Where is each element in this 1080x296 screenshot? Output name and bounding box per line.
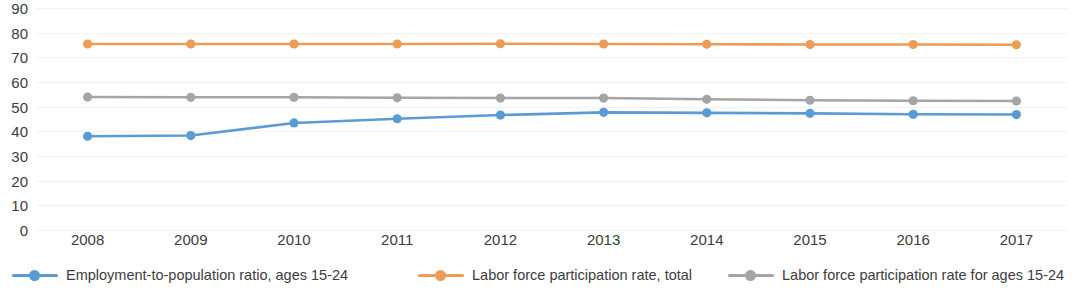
data-point-marker xyxy=(289,93,298,102)
data-point-marker xyxy=(186,39,195,48)
data-point-marker xyxy=(496,93,505,102)
legend-item[interactable]: Labor force participation rate, total xyxy=(418,262,692,288)
legend-item[interactable]: Labor force participation rate for ages … xyxy=(728,262,1064,288)
data-point-marker xyxy=(1012,110,1021,119)
data-point-marker xyxy=(289,118,298,127)
data-point-marker xyxy=(393,114,402,123)
series-layer xyxy=(36,8,1068,230)
data-point-marker xyxy=(1012,40,1021,49)
data-point-marker xyxy=(83,92,92,101)
x-axis-tick-label: 2009 xyxy=(174,232,207,247)
data-point-marker xyxy=(393,39,402,48)
data-point-marker xyxy=(805,40,814,49)
data-point-marker xyxy=(496,110,505,119)
data-point-marker xyxy=(702,108,711,117)
y-axis-tick-label: 40 xyxy=(11,124,28,139)
data-point-marker xyxy=(702,40,711,49)
data-point-marker xyxy=(1012,96,1021,105)
series-line xyxy=(88,44,1017,45)
series-line xyxy=(88,97,1017,101)
data-point-marker xyxy=(805,109,814,118)
legend-marker-icon xyxy=(418,267,464,283)
legend-label: Labor force participation rate for ages … xyxy=(782,268,1064,283)
y-axis-tick-label: 0 xyxy=(20,223,28,238)
y-axis-tick-label: 60 xyxy=(11,75,28,90)
data-point-marker xyxy=(599,39,608,48)
legend-marker-icon xyxy=(728,267,774,283)
series-3 xyxy=(83,92,1021,105)
legend-dot xyxy=(435,270,446,281)
data-point-marker xyxy=(599,108,608,117)
y-axis-tick-label: 30 xyxy=(11,149,28,164)
x-axis-tick-label: 2011 xyxy=(381,232,413,247)
legend-label: Labor force participation rate, total xyxy=(472,268,692,283)
data-point-marker xyxy=(702,95,711,104)
line-chart: 9080706050403020100 20082009201020112012… xyxy=(0,0,1080,296)
data-point-marker xyxy=(805,96,814,105)
x-axis-tick-label: 2015 xyxy=(793,232,826,247)
series-2 xyxy=(83,39,1021,49)
data-point-marker xyxy=(289,39,298,48)
y-axis-tick-label: 20 xyxy=(11,173,28,188)
data-point-marker xyxy=(496,39,505,48)
plot-area xyxy=(36,8,1068,230)
y-axis-tick-label: 70 xyxy=(11,50,28,65)
chart-legend: Employment-to-population ratio, ages 15-… xyxy=(0,262,1080,296)
x-axis-tick-label: 2016 xyxy=(897,232,930,247)
y-axis-tick-label: 80 xyxy=(11,25,28,40)
series-1 xyxy=(83,108,1021,141)
y-axis-tick-label: 50 xyxy=(11,99,28,114)
y-axis-tick-label: 90 xyxy=(11,1,28,16)
data-point-marker xyxy=(186,131,195,140)
legend-item[interactable]: Employment-to-population ratio, ages 15-… xyxy=(12,262,348,288)
data-point-marker xyxy=(909,40,918,49)
x-axis-tick-label: 2014 xyxy=(690,232,723,247)
x-axis-tick-label: 2010 xyxy=(277,232,310,247)
data-point-marker xyxy=(186,93,195,102)
x-axis-tick-label: 2017 xyxy=(1000,232,1033,247)
x-axis-tick-label: 2012 xyxy=(484,232,517,247)
series-line xyxy=(88,112,1017,136)
x-axis-tick-label: 2013 xyxy=(587,232,620,247)
legend-dot xyxy=(745,270,756,281)
data-point-marker xyxy=(599,93,608,102)
y-axis-tick-label: 10 xyxy=(11,198,28,213)
data-point-marker xyxy=(909,110,918,119)
data-point-marker xyxy=(83,39,92,48)
data-point-marker xyxy=(83,132,92,141)
x-axis-tick-label: 2008 xyxy=(71,232,104,247)
data-point-marker xyxy=(393,93,402,102)
legend-marker-icon xyxy=(12,267,58,283)
data-point-marker xyxy=(909,96,918,105)
y-axis: 9080706050403020100 xyxy=(0,8,34,230)
legend-dot xyxy=(29,270,40,281)
legend-label: Employment-to-population ratio, ages 15-… xyxy=(66,268,348,283)
x-axis: 2008200920102011201220132014201520162017 xyxy=(36,232,1068,256)
